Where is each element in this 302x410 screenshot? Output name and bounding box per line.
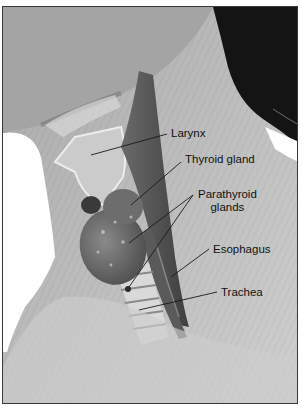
label-parathyroid-line2: glands <box>198 201 257 214</box>
label-thyroid-gland: Thyroid gland <box>185 153 255 166</box>
label-larynx: Larynx <box>171 127 206 140</box>
illustration-frame: Larynx Thyroid gland Parathyroid glands … <box>2 6 298 404</box>
parathyroid-gland <box>125 286 131 292</box>
label-parathyroid-line1: Parathyroid <box>198 188 257 201</box>
label-parathyroid-glands: Parathyroid glands <box>198 188 257 214</box>
label-trachea: Trachea <box>221 286 263 299</box>
label-esophagus: Esophagus <box>213 243 271 256</box>
